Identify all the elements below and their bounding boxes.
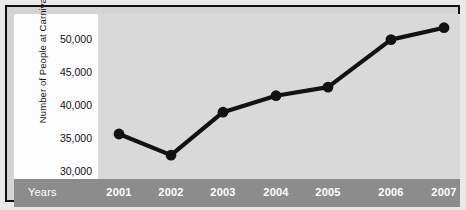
x-tick-label-2007: 2007 xyxy=(419,186,466,198)
series-markers xyxy=(114,22,450,160)
x-axis-band: Years 2001 2002 2003 2004 2005 2006 2007 xyxy=(14,179,460,207)
y-axis-label-strip: Number of People at Carnival 50,000 45,0… xyxy=(14,14,98,179)
plot-area xyxy=(98,14,460,179)
x-tick-label-2003: 2003 xyxy=(198,186,248,198)
line-chart-figure: Number of People at Carnival 50,000 45,0… xyxy=(0,0,466,210)
x-tick-label-2006: 2006 xyxy=(366,186,416,198)
y-tick-label-35000: 35,000 xyxy=(36,132,92,144)
data-point-2004 xyxy=(271,90,282,101)
data-point-2003 xyxy=(218,107,229,118)
data-point-2005 xyxy=(323,82,334,93)
x-axis-title: Years xyxy=(28,186,57,198)
y-tick-label-50000: 50,000 xyxy=(36,33,92,45)
y-tick-label-45000: 45,000 xyxy=(36,66,92,78)
x-tick-label-2001: 2001 xyxy=(94,186,144,198)
y-tick-label-40000: 40,000 xyxy=(36,99,92,111)
data-point-2007 xyxy=(439,22,450,33)
chart-frame: Number of People at Carnival 50,000 45,0… xyxy=(5,5,460,202)
x-tick-label-2004: 2004 xyxy=(251,186,301,198)
series-line xyxy=(119,28,444,155)
data-point-2001 xyxy=(114,129,125,140)
data-series-svg xyxy=(98,14,460,179)
y-tick-label-30000: 30,000 xyxy=(36,165,92,177)
data-point-2002 xyxy=(166,150,177,161)
x-tick-label-2002: 2002 xyxy=(146,186,196,198)
data-point-2006 xyxy=(386,34,397,45)
x-tick-label-2005: 2005 xyxy=(303,186,353,198)
